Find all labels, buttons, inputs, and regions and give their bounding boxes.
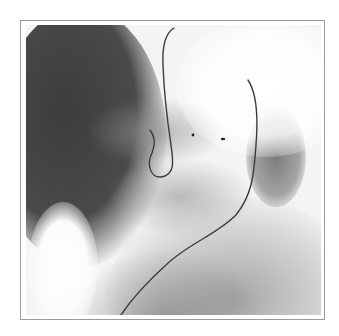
catheter-wire [121, 28, 257, 315]
marker-dot [192, 134, 195, 137]
catheter-overlay [26, 25, 321, 315]
marker-dot [221, 138, 225, 140]
fluoroscopy-image [26, 25, 321, 315]
